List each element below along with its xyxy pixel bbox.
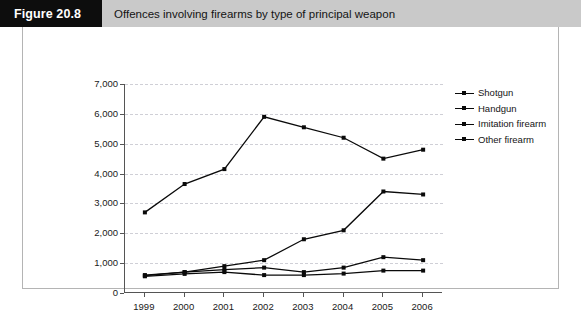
data-point-marker: [262, 115, 266, 119]
legend-item[interactable]: Other firearm: [455, 133, 580, 147]
y-axis-tick-label: 5,000: [62, 139, 118, 149]
data-point-marker: [421, 269, 425, 273]
data-point-marker: [302, 125, 306, 129]
figure-number-tag: Figure 20.8: [0, 0, 102, 27]
legend-item-label: Other firearm: [478, 135, 534, 145]
data-point-marker: [183, 182, 187, 186]
data-point-marker: [381, 157, 385, 161]
x-axis-tick-mark: [303, 293, 304, 297]
plot-area: [124, 84, 442, 293]
x-axis-tick-mark: [343, 293, 344, 297]
data-point-marker: [381, 269, 385, 273]
x-axis-tick-mark: [223, 293, 224, 297]
x-axis-tick-mark: [422, 293, 423, 297]
legend-item-label: Imitation firearm: [478, 119, 546, 129]
x-axis-tick-mark: [382, 293, 383, 297]
legend-line-marker-icon: [455, 104, 474, 113]
data-point-marker: [262, 266, 266, 270]
data-point-marker: [342, 228, 346, 232]
data-point-marker: [262, 273, 266, 277]
y-axis-tick-label: 3,000: [62, 198, 118, 208]
data-point-marker: [302, 237, 306, 241]
x-axis-tick-mark: [144, 293, 145, 297]
series-line: [145, 191, 423, 275]
y-axis-tick-label: 6,000: [62, 109, 118, 119]
y-axis-tick-mark: [120, 293, 124, 294]
data-point-marker: [421, 258, 425, 262]
series-line: [145, 117, 423, 213]
chart-legend: ShotgunHandgunImitation firearmOther fir…: [455, 86, 580, 148]
data-point-marker: [222, 270, 226, 274]
data-point-marker: [143, 274, 147, 278]
y-axis-tick-label: 0: [62, 288, 118, 298]
x-axis-tick-mark: [263, 293, 264, 297]
legend-item[interactable]: Imitation firearm: [455, 117, 580, 131]
legend-line-marker-icon: [455, 120, 474, 129]
figure-caption-title: Offences involving firearms by type of p…: [102, 0, 581, 27]
x-axis-tick-mark: [184, 293, 185, 297]
data-point-marker: [342, 136, 346, 140]
data-point-marker: [222, 167, 226, 171]
y-axis-tick-label: 1,000: [62, 258, 118, 268]
data-point-marker: [381, 255, 385, 259]
legend-item-label: Handgun: [478, 104, 517, 114]
legend-line-marker-icon: [455, 89, 474, 98]
series-lines: [125, 84, 443, 293]
data-point-marker: [421, 192, 425, 196]
data-point-marker: [302, 273, 306, 277]
chart-container: 01,0002,0003,0004,0005,0006,0007,000 199…: [22, 27, 559, 289]
data-point-marker: [342, 266, 346, 270]
y-axis-tick-label: 4,000: [62, 169, 118, 179]
data-point-marker: [143, 210, 147, 214]
data-point-marker: [262, 258, 266, 262]
data-point-marker: [183, 272, 187, 276]
legend-item[interactable]: Shotgun: [455, 86, 580, 100]
y-axis-tick-label: 2,000: [62, 228, 118, 238]
legend-item[interactable]: Handgun: [455, 102, 580, 116]
legend-line-marker-icon: [455, 135, 474, 144]
figure-caption-bar: Figure 20.8 Offences involving firearms …: [0, 0, 581, 27]
y-axis-tick-label: 7,000: [62, 79, 118, 89]
data-point-marker: [421, 148, 425, 152]
data-point-marker: [342, 272, 346, 276]
data-point-marker: [222, 264, 226, 268]
x-axis-tick-label: 2006: [399, 302, 445, 312]
legend-item-label: Shotgun: [478, 88, 513, 98]
data-point-marker: [381, 189, 385, 193]
